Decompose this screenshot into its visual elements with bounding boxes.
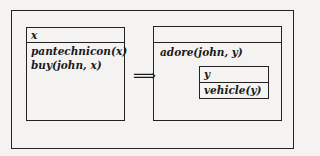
left-universe-text: x bbox=[31, 29, 37, 41]
nested-drs-box: y vehicle(y) bbox=[199, 66, 269, 99]
right-condition-1: adore(john, y) bbox=[160, 46, 243, 58]
left-condition-2: buy(john, x) bbox=[31, 59, 102, 71]
nested-universe-text: y bbox=[204, 68, 210, 80]
right-drs-universe bbox=[154, 27, 281, 43]
left-drs-universe: x bbox=[27, 28, 124, 43]
right-drs-box: adore(john, y) y vehicle(y) bbox=[153, 26, 282, 121]
nested-drs-universe: y bbox=[200, 67, 268, 83]
nested-condition-1: vehicle(y) bbox=[204, 84, 262, 96]
left-drs-box: x pantechnicon(x) buy(john, x) bbox=[26, 27, 125, 121]
left-condition-1: pantechnicon(x) bbox=[31, 45, 127, 57]
